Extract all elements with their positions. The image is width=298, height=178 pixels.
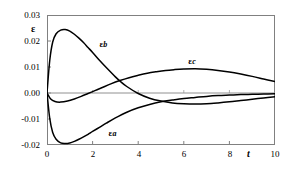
chart-figure: 0.03 0.02 0.01 0.00 -0.01 -0.02 ε 0 2 4 …	[0, 0, 298, 178]
curve-ε_c	[47, 69, 275, 102]
x-tick-label: 6	[174, 149, 194, 159]
x-axis-label: t	[247, 148, 250, 159]
y-tick-label: 0.03	[6, 10, 40, 20]
x-tick-label: 10	[265, 149, 285, 159]
x-axis-label-text: t	[247, 148, 250, 159]
x-tick-label: 4	[129, 149, 149, 159]
y-tick-label: 0.00	[6, 88, 40, 98]
y-tick-label: 0.01	[6, 62, 40, 72]
y-axis-label: ε	[31, 23, 35, 34]
y-tick-label: -0.01	[6, 114, 40, 124]
x-tick-label: 8	[220, 149, 240, 159]
y-tick-label: -0.02	[6, 140, 40, 150]
x-tick-label: 2	[83, 149, 103, 159]
plot-border	[48, 16, 275, 145]
data-curves	[47, 29, 275, 143]
y-tick-label: 0.02	[6, 36, 40, 46]
plot-area	[47, 15, 275, 145]
x-tick-label: 0	[37, 149, 57, 159]
